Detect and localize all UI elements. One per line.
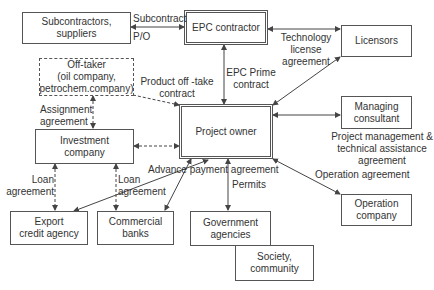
node-project-owner: Project owner — [179, 104, 273, 159]
label-po: P/O — [133, 31, 150, 43]
node-label: Investment company — [60, 135, 109, 159]
node-label: Subcontractors, suppliers — [41, 16, 111, 40]
node-licensors: Licensors — [341, 25, 412, 57]
label-project-management: Project management & technical assistanc… — [330, 131, 434, 167]
node-investment-company: Investment company — [35, 129, 134, 164]
node-label: Project owner — [195, 126, 256, 138]
node-off-taker: Off-taker (oil company, petrochem.compan… — [39, 58, 134, 96]
label-loan-banks: Loan agreement — [118, 174, 166, 198]
node-export-credit-agency: Export credit agency — [10, 211, 88, 245]
label-technology-license: Technology license agreement — [278, 32, 334, 68]
node-label: Government agencies — [203, 217, 258, 241]
node-operation-company: Operation company — [341, 194, 412, 226]
node-label: Licensors — [355, 35, 398, 47]
node-society-community: Society, community — [235, 245, 314, 281]
label-assignment: Assignment agreement — [40, 104, 92, 128]
node-subcontractors: Subcontractors, suppliers — [22, 12, 131, 44]
label-operation: Operation agreement — [315, 169, 410, 181]
label-epc-prime: EPC Prime contract — [226, 67, 276, 91]
label-subcontract: Subcontract — [133, 13, 186, 25]
node-label: Off-taker (oil company, petrochem.compan… — [40, 59, 134, 95]
node-label: Operation company — [355, 198, 399, 222]
label-permits: Permits — [232, 179, 266, 191]
node-label: Managing consultant — [354, 101, 400, 125]
label-advance-payment: Advance payment agreement — [148, 164, 279, 176]
node-label: Export credit agency — [19, 216, 78, 240]
node-label: Society, community — [250, 251, 298, 275]
node-managing-consultant: Managing consultant — [341, 96, 412, 129]
node-epc-contractor: EPC contractor — [184, 10, 268, 45]
label-product-offtake: Product off -take contract — [137, 76, 217, 100]
node-commercial-banks: Commercial banks — [97, 211, 174, 245]
node-label: EPC contractor — [192, 22, 260, 34]
label-loan-eca: Loan agreement — [4, 174, 54, 198]
node-label: Commercial banks — [109, 216, 162, 240]
node-government-agencies: Government agencies — [190, 211, 271, 246]
